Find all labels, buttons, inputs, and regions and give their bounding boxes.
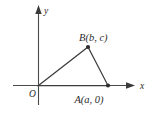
x-axis-label: x <box>139 81 145 91</box>
label-layer: y x O B(b, c) A(a, 0) <box>0 0 156 118</box>
point-label-a: A(a, 0) <box>73 94 104 106</box>
point-label-b: B(b, c) <box>79 32 108 44</box>
coordinate-diagram-figure: y x O B(b, c) A(a, 0) <box>0 0 156 118</box>
origin-label: O <box>29 89 36 99</box>
y-axis-label: y <box>43 6 49 16</box>
